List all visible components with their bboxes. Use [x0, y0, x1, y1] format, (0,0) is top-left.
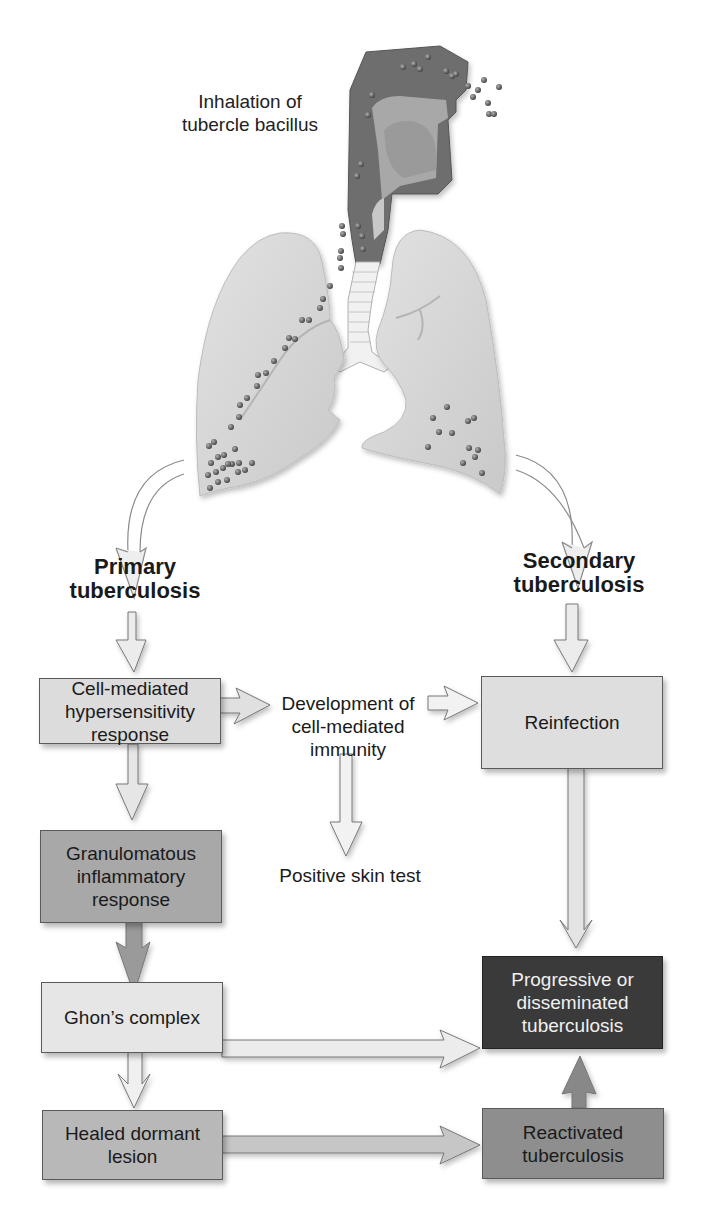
node-granulomatous-inflammatory-response: Granulomatous inflammatory response [40, 830, 222, 923]
primary-heading-line-2: tuberculosis [50, 579, 220, 603]
node-text-line: tuberculosis [511, 1014, 634, 1037]
node-text-line: response [65, 723, 195, 746]
node-text-line: inflammatory [66, 865, 196, 888]
node-text-line: immunity [268, 738, 428, 761]
node-development-cell-mediated-immunity: Development of cell-mediated immunity [268, 692, 428, 761]
arrow-cell-mediated-to-development [220, 688, 270, 724]
secondary-heading-line-2: tuberculosis [494, 573, 664, 597]
inhalation-label: Inhalation of tubercle bacillus [160, 90, 340, 136]
node-progressive-disseminated-tuberculosis: Progressive or disseminated tuberculosis [482, 956, 663, 1049]
primary-heading-line-1: Primary [50, 555, 220, 579]
node-text-line: Reactivated [522, 1121, 623, 1144]
node-text-line: Ghon’s complex [64, 1006, 200, 1029]
arrow-primary-to-cell-mediated [116, 612, 146, 672]
node-text-line: Progressive or [511, 968, 634, 991]
inhalation-label-line-1: Inhalation of [160, 90, 340, 113]
node-text-line: disseminated [511, 991, 634, 1014]
arrow-development-to-skin-test [330, 754, 362, 856]
node-text-line: Cell-mediated [65, 677, 195, 700]
node-text-line: Positive skin test [262, 864, 438, 887]
secondary-tuberculosis-heading: Secondary tuberculosis [494, 549, 664, 597]
node-healed-dormant-lesion: Healed dormant lesion [42, 1110, 223, 1180]
secondary-heading-line-1: Secondary [494, 549, 664, 573]
arrow-reinfection-to-progressive [560, 768, 592, 948]
node-text-line: tuberculosis [522, 1144, 623, 1167]
node-text-line: Granulomatous [66, 842, 196, 865]
node-cell-mediated-hypersensitivity: Cell-mediated hypersensitivity response [39, 678, 221, 744]
node-text-line: Reinfection [524, 711, 619, 734]
node-text-line: response [66, 888, 196, 911]
node-text-line: hypersensitivity [65, 700, 195, 723]
node-reinfection: Reinfection [481, 676, 663, 769]
arrow-cell-mediated-to-granulomatous [116, 744, 148, 820]
inhalation-label-line-2: tubercle bacillus [160, 113, 340, 136]
node-text-line: Development of [268, 692, 428, 715]
arrow-development-to-reinfection [428, 686, 478, 720]
node-text-line: lesion [65, 1145, 200, 1168]
arrow-reactivated-to-progressive [562, 1056, 596, 1108]
node-reactivated-tuberculosis: Reactivated tuberculosis [482, 1108, 664, 1179]
arrow-ghon-to-healed [118, 1052, 150, 1108]
arrow-secondary-to-reinfection [554, 604, 588, 672]
primary-tuberculosis-heading: Primary tuberculosis [50, 555, 220, 603]
node-ghons-complex: Ghon’s complex [41, 982, 223, 1053]
arrow-healed-to-reactivated [222, 1126, 480, 1164]
airway-head-illustration [348, 46, 468, 264]
arrow-ghon-to-progressive [222, 1030, 480, 1068]
node-text-line: cell-mediated [268, 715, 428, 738]
node-text-line: Healed dormant [65, 1122, 200, 1145]
node-positive-skin-test: Positive skin test [262, 864, 438, 887]
